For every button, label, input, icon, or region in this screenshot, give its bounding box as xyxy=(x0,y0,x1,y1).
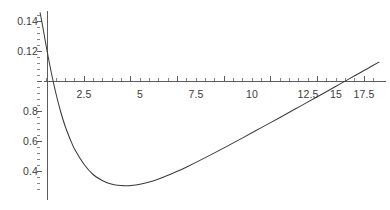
x-tick-label: 10 xyxy=(246,89,258,100)
plot-figure: 0.140.120.80.60.4 2.557.51012.51517.5 xyxy=(0,0,390,210)
x-tick-label: 5 xyxy=(137,89,143,100)
y-tick-label: 0.14 xyxy=(0,16,38,27)
y-axis-ticks xyxy=(37,15,42,189)
x-tick-label: 15 xyxy=(330,89,342,100)
y-tick-label: 0.12 xyxy=(0,46,38,57)
x-tick-label: 17.5 xyxy=(354,89,375,100)
x-axis-group xyxy=(44,76,386,81)
y-tick-label: 0.4 xyxy=(0,166,38,177)
y-tick-label: 0.8 xyxy=(0,106,38,117)
y-tick-label: 0.6 xyxy=(0,136,38,147)
x-axis-ticks xyxy=(47,76,374,81)
plot-canvas xyxy=(0,0,390,210)
x-tick-label: 12.5 xyxy=(298,89,319,100)
x-tick-label: 2.5 xyxy=(77,89,92,100)
x-tick-label: 7.5 xyxy=(189,89,204,100)
y-axis-group xyxy=(37,11,47,200)
